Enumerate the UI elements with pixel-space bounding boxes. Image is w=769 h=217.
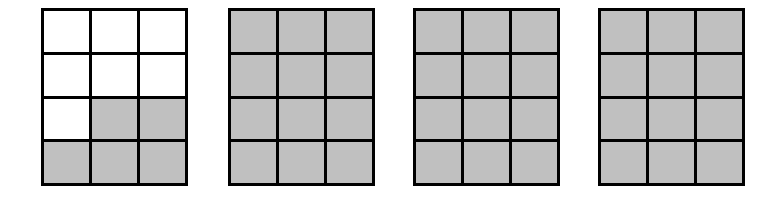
area-model-1[interactable] — [41, 8, 188, 186]
cell-r1-c1[interactable] — [601, 11, 646, 52]
cell-r1-c1[interactable] — [416, 11, 461, 52]
cell-r4-c3[interactable] — [327, 142, 372, 183]
cell-r4-c3[interactable] — [512, 142, 557, 183]
cell-r2-c1[interactable] — [231, 55, 276, 96]
cell-r3-c1[interactable] — [601, 99, 646, 140]
cell-r2-c1[interactable] — [44, 55, 89, 96]
cell-r3-c2[interactable] — [92, 99, 137, 140]
cell-r3-c3[interactable] — [140, 99, 185, 140]
cell-r2-c2[interactable] — [279, 55, 324, 96]
cell-r3-c3[interactable] — [512, 99, 557, 140]
cell-r3-c1[interactable] — [231, 99, 276, 140]
area-model-2[interactable] — [228, 8, 375, 186]
cell-r1-c3[interactable] — [327, 11, 372, 52]
cell-r2-c2[interactable] — [649, 55, 694, 96]
cell-r4-c3[interactable] — [140, 142, 185, 183]
cell-r3-c1[interactable] — [44, 99, 89, 140]
cell-r1-c3[interactable] — [140, 11, 185, 52]
cell-r1-c2[interactable] — [649, 11, 694, 52]
cell-r4-c2[interactable] — [464, 142, 509, 183]
cell-r1-c1[interactable] — [231, 11, 276, 52]
cell-r2-c3[interactable] — [327, 55, 372, 96]
cell-r2-c3[interactable] — [140, 55, 185, 96]
cell-r4-c2[interactable] — [279, 142, 324, 183]
cell-r3-c2[interactable] — [279, 99, 324, 140]
cell-r4-c2[interactable] — [649, 142, 694, 183]
cell-r3-c1[interactable] — [416, 99, 461, 140]
cell-r1-c2[interactable] — [279, 11, 324, 52]
cell-r1-c3[interactable] — [512, 11, 557, 52]
cell-r1-c3[interactable] — [697, 11, 742, 52]
cell-r1-c2[interactable] — [92, 11, 137, 52]
cell-r4-c1[interactable] — [44, 142, 89, 183]
cell-r1-c2[interactable] — [464, 11, 509, 52]
cell-r3-c3[interactable] — [697, 99, 742, 140]
cell-r4-c1[interactable] — [231, 142, 276, 183]
cell-r4-c1[interactable] — [416, 142, 461, 183]
cell-r3-c2[interactable] — [464, 99, 509, 140]
area-model-3[interactable] — [413, 8, 560, 186]
cell-r4-c3[interactable] — [697, 142, 742, 183]
area-model-4[interactable] — [598, 8, 745, 186]
cell-r2-c3[interactable] — [697, 55, 742, 96]
cell-r2-c2[interactable] — [92, 55, 137, 96]
figure-canvas — [0, 0, 769, 217]
cell-r2-c3[interactable] — [512, 55, 557, 96]
cell-r2-c1[interactable] — [416, 55, 461, 96]
cell-r3-c2[interactable] — [649, 99, 694, 140]
cell-r4-c2[interactable] — [92, 142, 137, 183]
cell-r1-c1[interactable] — [44, 11, 89, 52]
cell-r3-c3[interactable] — [327, 99, 372, 140]
cell-r2-c1[interactable] — [601, 55, 646, 96]
cell-r2-c2[interactable] — [464, 55, 509, 96]
cell-r4-c1[interactable] — [601, 142, 646, 183]
